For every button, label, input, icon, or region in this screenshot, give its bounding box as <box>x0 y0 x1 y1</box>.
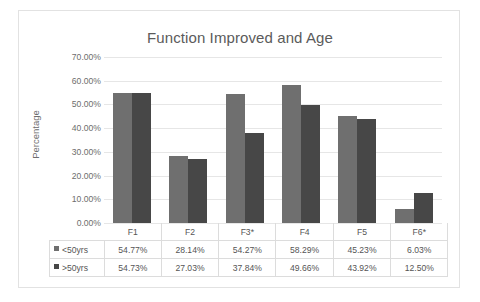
bar[interactable] <box>301 105 320 223</box>
table-corner-cell <box>50 223 105 241</box>
table-cell-value: 12.50% <box>391 259 448 277</box>
table-cell-value: 43.92% <box>333 259 390 277</box>
bar-group <box>273 57 329 223</box>
bar[interactable] <box>282 85 301 223</box>
bar[interactable] <box>169 156 188 223</box>
x-axis-category-label: F2 <box>161 223 218 241</box>
chart-data-table: F1F2F3*F4F5F6*<50yrs54.77%28.14%54.27%58… <box>49 223 448 277</box>
chart-container: Function Improved and Age Percentage 70.… <box>18 10 460 288</box>
bar[interactable] <box>357 119 376 223</box>
y-axis-tick-labels: 70.00%60.00%50.00%40.00%30.00%20.00%10.0… <box>49 57 101 223</box>
bar[interactable] <box>414 193 433 223</box>
legend-label: <50yrs <box>62 245 88 255</box>
y-axis-tick-label: 60.00% <box>49 76 101 86</box>
plot-area <box>104 57 442 223</box>
x-axis-category-label: F5 <box>333 223 390 241</box>
table-cell-value: 28.14% <box>161 241 218 259</box>
x-axis-category-label: F4 <box>276 223 333 241</box>
x-axis-category-label: F3* <box>219 223 276 241</box>
legend-swatch-icon <box>54 264 59 269</box>
bar[interactable] <box>395 209 414 223</box>
table-cell-value: 58.29% <box>276 241 333 259</box>
legend-item[interactable]: >50yrs <box>50 259 105 277</box>
y-axis-tick-label: 40.00% <box>49 123 101 133</box>
bar-group <box>104 57 160 223</box>
y-axis-tick-label: 20.00% <box>49 171 101 181</box>
bar[interactable] <box>132 93 151 223</box>
table-cell-value: 54.77% <box>105 241 162 259</box>
table-cell-value: 6.03% <box>391 241 448 259</box>
table-cell-value: 37.84% <box>219 259 276 277</box>
bar-group <box>329 57 385 223</box>
table-cell-value: 54.27% <box>219 241 276 259</box>
table-cell-value: 54.73% <box>105 259 162 277</box>
y-axis-tick-label: 30.00% <box>49 147 101 157</box>
y-axis-tick-label: 50.00% <box>49 99 101 109</box>
table-row: >50yrs54.73%27.03%37.84%49.66%43.92%12.5… <box>50 259 448 277</box>
table-row: <50yrs54.77%28.14%54.27%58.29%45.23%6.03… <box>50 241 448 259</box>
chart-title: Function Improved and Age <box>19 29 461 46</box>
table-cell-value: 49.66% <box>276 259 333 277</box>
bar-group <box>160 57 216 223</box>
y-axis-title: Percentage <box>30 95 41 175</box>
legend-label: >50yrs <box>62 263 88 273</box>
bar-group <box>386 57 442 223</box>
bar-group <box>217 57 273 223</box>
y-axis-tick-label: 10.00% <box>49 194 101 204</box>
table-cell-value: 27.03% <box>161 259 218 277</box>
y-axis-tick-label: 70.00% <box>49 52 101 62</box>
bar[interactable] <box>113 93 132 223</box>
bar[interactable] <box>226 94 245 223</box>
bar[interactable] <box>245 133 264 223</box>
legend-swatch-icon <box>54 246 59 251</box>
table-row-categories: F1F2F3*F4F5F6* <box>50 223 448 241</box>
x-axis-category-label: F6* <box>391 223 448 241</box>
x-axis-category-label: F1 <box>105 223 162 241</box>
bar[interactable] <box>338 116 357 223</box>
table-cell-value: 45.23% <box>333 241 390 259</box>
bar[interactable] <box>188 159 207 223</box>
legend-item[interactable]: <50yrs <box>50 241 105 259</box>
bars-layer <box>104 57 442 223</box>
